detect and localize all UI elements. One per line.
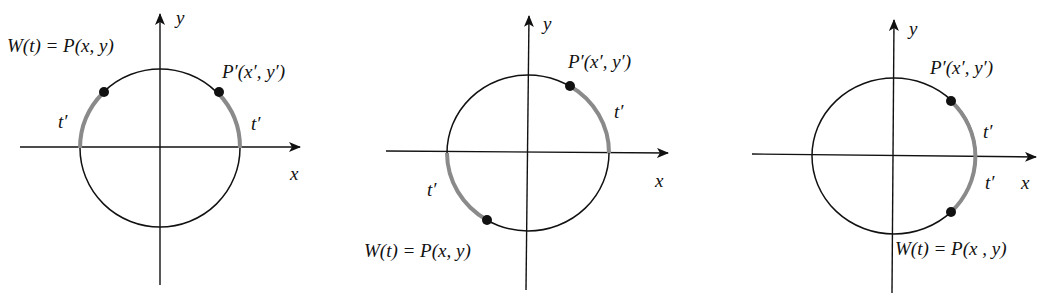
- diagram-1: y x W(t) = P(x, y) P′(x′, y′) t′ t′: [7, 7, 300, 285]
- point-w-label: W(t) = P(x , y): [895, 238, 1006, 260]
- arc-label-right: t′: [614, 101, 624, 122]
- point-w: [482, 215, 492, 225]
- arc-label-left: t′: [58, 111, 68, 132]
- x-axis: [752, 154, 1036, 157]
- point-w: [946, 207, 956, 217]
- y-axis-label: y: [174, 7, 185, 28]
- point-p-prime: [946, 96, 956, 106]
- diagram-3: y x P′(x′, y′) W(t) = P(x , y) t′ t′: [752, 18, 1036, 293]
- arc-label-right: t′: [251, 113, 261, 134]
- unit-circle-figure: y x W(t) = P(x, y) P′(x′, y′) t′ t′ y x …: [0, 0, 1051, 298]
- arc-t-prime-right: [218, 93, 240, 148]
- x-axis-label: x: [654, 170, 664, 191]
- point-p-prime: [565, 81, 575, 91]
- arc-t-prime-left: [80, 93, 103, 148]
- y-axis-label: y: [541, 13, 552, 34]
- y-axis: [526, 16, 529, 290]
- x-axis-label: x: [289, 163, 299, 184]
- arc-label-left: t′: [427, 179, 437, 200]
- point-p-prime-label: P′(x′, y′): [567, 51, 631, 73]
- arc-t-prime-right: [570, 86, 609, 153]
- point-p-prime: [214, 87, 224, 97]
- arc-label-lower: t′: [985, 172, 995, 193]
- arc-label-upper: t′: [983, 121, 993, 142]
- y-axis-label: y: [907, 18, 918, 39]
- diagram-2: y x P′(x′, y′) W(t) = P(x, y) t′ t′: [364, 13, 668, 290]
- point-w: [99, 87, 109, 97]
- point-p-prime-label: P′(x′, y′): [221, 61, 285, 83]
- arc-t-prime-left: [447, 153, 487, 220]
- point-w-label: W(t) = P(x, y): [7, 35, 114, 57]
- point-w-label: W(t) = P(x, y): [364, 240, 471, 262]
- point-p-prime-label: P′(x′, y′): [929, 57, 993, 79]
- x-axis-label: x: [1020, 172, 1030, 193]
- y-axis: [892, 20, 894, 293]
